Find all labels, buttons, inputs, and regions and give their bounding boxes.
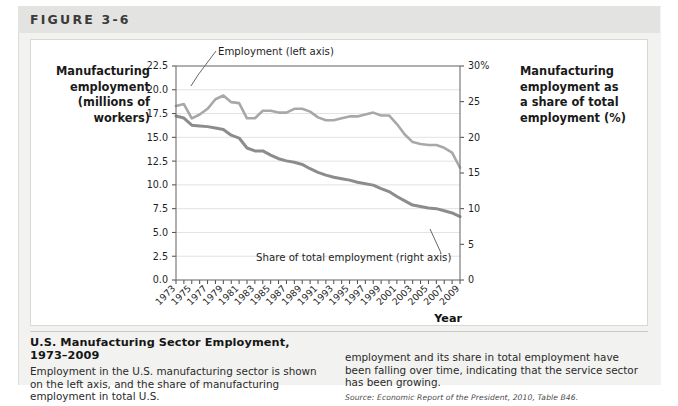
annotations-group: Employment (left axis)Share of total emp…	[191, 46, 451, 263]
figure-label: FIGURE 3-6	[30, 12, 131, 27]
right-tick-label: 30%	[468, 60, 489, 71]
left-tick-label: 20.0	[147, 84, 168, 95]
annotation-employment-leader	[191, 51, 216, 86]
left-tick-label: 5.0	[153, 227, 168, 238]
right-tick-label: 25	[468, 96, 480, 107]
annotation-share-label: Share of total employment (right axis)	[256, 252, 451, 263]
left-tick-label: 2.5	[153, 251, 168, 262]
series-line-employment	[176, 95, 460, 167]
left-tick-label: 22.5	[147, 60, 168, 71]
caption-title: U.S. Manufacturing Sector Employment, 19…	[30, 336, 330, 362]
right-tick-label: 20	[468, 132, 480, 143]
right-tick-label: 0	[468, 274, 474, 285]
caption-body-right: employment and its share in total employ…	[345, 351, 645, 389]
caption-block: U.S. Manufacturing Sector Employment, 19…	[30, 336, 648, 386]
caption-divider	[30, 331, 648, 332]
left-tick-label: 10.0	[147, 179, 168, 190]
right-axis-ticks-group: 051015202530%	[460, 60, 489, 285]
caption-source: Source: Economic Report of the President…	[345, 393, 645, 402]
annotation-employment-label: Employment (left axis)	[218, 46, 334, 57]
left-tick-label: 7.5	[153, 203, 168, 214]
left-axis-ticks-group: 0.02.55.07.510.012.515.017.520.022.5	[147, 60, 176, 285]
x-axis-title: Year	[433, 312, 462, 325]
right-tick-label: 5	[468, 239, 474, 250]
left-tick-label: 12.5	[147, 156, 168, 167]
x-axis-ticks-group: 1973197519771979198119831985198719891991…	[153, 280, 462, 307]
line-chart-svg: 0.02.55.07.510.012.515.017.520.022.5 051…	[30, 39, 648, 326]
series-line-share	[176, 116, 460, 217]
right-tick-label: 15	[468, 167, 480, 178]
right-tick-label: 10	[468, 203, 480, 214]
caption-right-column: employment and its share in total employ…	[345, 336, 645, 406]
caption-body-left: Employment in the U.S. manufacturing sec…	[30, 365, 330, 403]
plot-area-wrapper: 0.02.55.07.510.012.515.017.520.022.5 051…	[30, 39, 648, 326]
left-tick-label: 0.0	[153, 274, 168, 285]
left-tick-label: 17.5	[147, 108, 168, 119]
caption-left-column: U.S. Manufacturing Sector Employment, 19…	[30, 336, 330, 403]
left-tick-label: 15.0	[147, 132, 168, 143]
